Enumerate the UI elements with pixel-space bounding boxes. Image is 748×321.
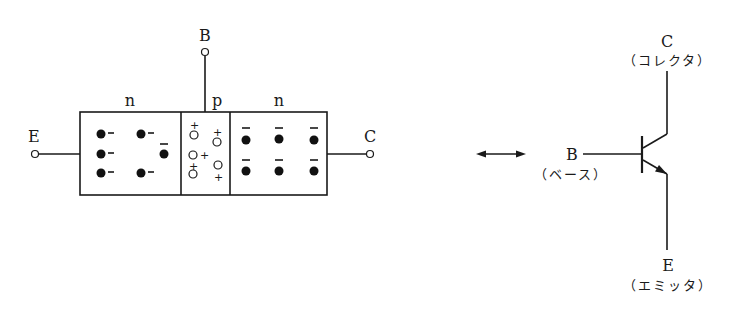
electron [97,130,106,139]
hole [214,161,222,169]
collector-terminal-label: C [364,127,376,146]
electron [275,135,284,144]
base-name: （ベース） [534,167,608,182]
electron [310,167,319,176]
hole-charge: + [200,149,209,162]
electron [310,136,319,145]
emitter-arrow-icon [655,165,667,174]
arrow-head-left [476,151,486,158]
hole [213,138,221,146]
base-terminal-label: B [199,26,211,45]
electron [160,150,169,159]
electron [97,150,106,159]
emitter-terminal [32,151,39,158]
electron [242,136,251,145]
electron [242,167,251,176]
emitter-name: （エミッタ） [623,278,713,293]
base-terminal [202,49,209,56]
electron [137,130,146,139]
collector-region-label: n [274,91,284,110]
emitter-letter: E [662,256,674,275]
hole-charge: + [190,119,199,132]
emitter-terminal-label: E [28,127,40,146]
collector-diagonal [643,134,667,148]
emitter-region-label: n [125,91,135,110]
collector-terminal [367,151,374,158]
collector-name: （コレクタ） [623,53,712,68]
electron [275,167,284,176]
npn-transistor-diagram: E C B n p n [0,0,748,321]
hole [190,131,198,139]
arrow-head-right [516,151,526,158]
npn-symbol: C （コレクタ） B （ベース） E （エミッタ） [534,32,713,293]
electron [97,169,106,178]
base-region-label: p [212,91,222,110]
hole-charge: + [213,126,222,139]
hole [189,151,197,159]
collector-letter: C [661,32,673,51]
base-letter: B [566,145,578,164]
equivalence-arrow [476,151,526,158]
npn-structure: E C B n p n [28,26,376,195]
electron [137,169,146,178]
hole-charge: + [189,160,198,173]
hole-charge: + [214,171,223,184]
